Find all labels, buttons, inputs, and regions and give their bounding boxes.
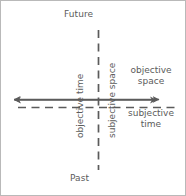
- subjective-time-label: subjective time: [120, 108, 182, 129]
- past-label: Past: [70, 173, 89, 184]
- axes-graphic: [1, 1, 186, 196]
- spacetime-axes-diagram: Future Past objective time subjective sp…: [0, 0, 186, 196]
- subjective-time-label-line1: subjective: [120, 108, 182, 119]
- subjective-space-label: subjective space: [107, 63, 117, 138]
- objective-space-label-line2: space: [120, 76, 182, 87]
- objective-space-label-line1: objective: [120, 65, 182, 76]
- subjective-time-label-line2: time: [120, 119, 182, 130]
- future-label: Future: [64, 9, 93, 20]
- objective-space-label: objective space: [120, 65, 182, 86]
- objective-time-label: objective time: [75, 74, 85, 138]
